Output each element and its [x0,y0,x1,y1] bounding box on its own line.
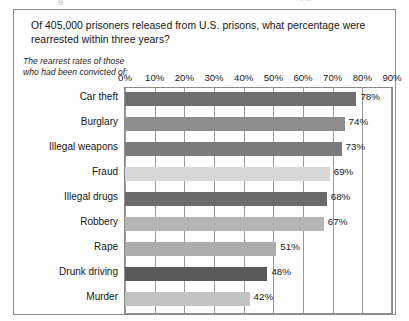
bar-value-label: 48% [271,266,291,277]
category-label: Burglary [81,116,118,127]
bar-row: Car theft78% [125,88,392,113]
sliver-right-fragment: · ·· [300,0,312,5]
bar-value-label: 42% [254,291,274,302]
bar [125,92,356,106]
bar [125,192,327,206]
bar-value-label: 69% [334,166,354,177]
sliver-left-fragment: g [58,0,63,5]
bar [125,292,250,306]
bar-row: Rape51% [125,238,392,263]
category-label: Fraud [92,166,118,177]
x-axis-tick-label: 30% [204,72,223,83]
bar-row: Robbery67% [125,213,392,238]
bar-value-label: 67% [328,216,348,227]
bar-value-label: 51% [280,241,300,252]
plot-area: 0%10%20%30%40%50%60%70%80%90%Car theft78… [124,87,393,314]
bar-value-label: 68% [331,191,351,202]
x-axis-tick-label: 50% [264,72,283,83]
x-axis-tick-label: 60% [293,72,312,83]
x-axis-tick-label: 90% [382,72,401,83]
bar-row: Illegal drugs68% [125,188,392,213]
category-label: Robbery [80,216,118,227]
x-axis-tick-label: 20% [175,72,194,83]
bar-value-label: 74% [349,116,369,127]
category-label: Car theft [80,91,118,102]
x-axis-tick-label: 80% [353,72,372,83]
category-label: Illegal drugs [64,191,118,202]
bar-row: Murder42% [125,288,392,313]
chart-question-title: Of 405,000 prisoners released from U.S. … [31,19,381,46]
cut-off-page-text-sliver: g · ·· [0,0,409,7]
x-axis-tick-label: 0% [118,72,132,83]
figure-container: Of 405,000 prisoners released from U.S. … [13,9,396,315]
category-label: Illegal weapons [49,141,118,152]
bar-value-label: 78% [360,91,380,102]
bar-row: Illegal weapons73% [125,138,392,163]
category-label: Rape [94,241,118,252]
bar-row: Burglary74% [125,113,392,138]
category-label: Drunk driving [59,266,118,277]
bar-value-label: 73% [346,141,366,152]
bar [125,242,276,256]
bar [125,142,342,156]
chart-caption: The rearrest rates of those who had been… [23,56,128,77]
x-axis-tick-label: 10% [145,72,164,83]
x-axis-tick-label: 40% [234,72,253,83]
bar [125,117,345,131]
bar-row: Fraud69% [125,163,392,188]
bar-row: Drunk driving48% [125,263,392,288]
bar [125,267,267,281]
bar [125,217,324,231]
x-axis-tick-label: 70% [323,72,342,83]
category-label: Murder [86,291,118,302]
bar [125,167,330,181]
